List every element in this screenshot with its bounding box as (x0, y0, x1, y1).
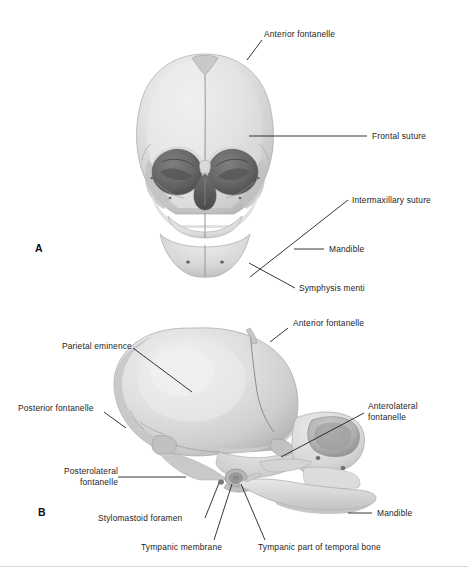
label-b-posterior-fontanelle: Posterior fontanelle (18, 403, 94, 414)
label-b-tympanic-membrane: Tympanic membrane (141, 542, 222, 553)
label-b-tympanic-part-temporal: Tympanic part of temporal bone (258, 542, 381, 553)
figure-bottom-rule (0, 566, 468, 567)
label-a-anterior-fontanelle: Anterior fontanelle (264, 29, 335, 40)
label-b-parietal-eminence: Parietal eminence (62, 341, 132, 352)
label-b-anterior-fontanelle: Anterior fontanelle (293, 318, 364, 329)
anatomical-figure: Anterior fontanelle Frontal suture Inter… (0, 0, 468, 579)
skull-anterior-illustration (130, 48, 280, 283)
skull-lateral-illustration (100, 322, 390, 522)
label-a-mandible: Mandible (329, 244, 364, 255)
label-b-stylomastoid-foramen: Stylomastoid foramen (98, 513, 182, 524)
label-b-mandible: Mandible (377, 508, 412, 519)
label-a-symphysis-menti: Symphysis menti (299, 283, 365, 294)
label-a-intermaxillary-suture: Intermaxillary suture (352, 195, 431, 206)
panel-letter-a: A (35, 242, 43, 254)
label-b-posterolateral-fontanelle-line1: Posterolateral (64, 466, 118, 476)
label-b-anterolateral-fontanelle: Anterolateral fontanelle (368, 401, 466, 422)
label-b-anterolateral-fontanelle-line1: Anterolateral (368, 401, 418, 411)
label-b-posterolateral-fontanelle: Posterolateral fontanelle (38, 466, 118, 487)
label-b-posterolateral-fontanelle-line2: fontanelle (80, 477, 118, 487)
panel-letter-b: B (38, 506, 46, 518)
figure-caption-clipped (0, 572, 468, 579)
label-b-anterolateral-fontanelle-line2: fontanelle (368, 412, 406, 422)
label-a-frontal-suture: Frontal suture (372, 131, 426, 142)
